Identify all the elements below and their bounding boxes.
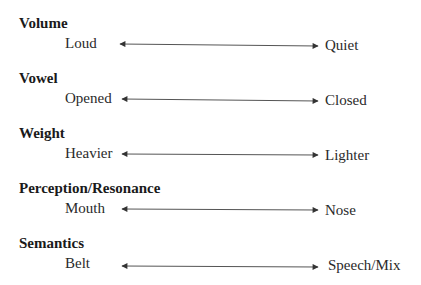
double-arrow-volume: [120, 44, 318, 46]
double-arrow-vowel: [122, 99, 318, 101]
double-arrow-perception: [122, 209, 318, 210]
double-arrow-semantics: [122, 266, 318, 267]
arrows: [0, 0, 421, 285]
double-arrow-weight: [122, 154, 318, 155]
